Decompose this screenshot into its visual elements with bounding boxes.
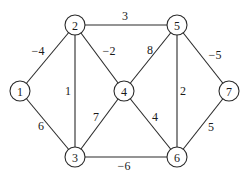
node-5: 5 [167, 15, 187, 35]
node-label: 4 [121, 85, 127, 99]
node-1: 1 [10, 81, 30, 101]
node-2: 2 [65, 15, 85, 35]
edge-weight-1-2: −4 [32, 44, 45, 58]
edge-weight-4-5: 8 [147, 43, 153, 57]
nodes: 1234567 [10, 15, 239, 167]
edge-weight-5-7: −5 [209, 48, 222, 62]
edge-weight-3-4: 7 [93, 110, 99, 124]
edge-1-2 [20, 25, 75, 91]
edge-4-5 [124, 25, 177, 91]
edge-weight-5-6: 2 [180, 84, 186, 98]
edge-2-4 [75, 25, 124, 91]
node-7: 7 [219, 81, 239, 101]
edge-weight-6-7: 5 [208, 120, 214, 134]
edge-1-3 [20, 91, 75, 157]
node-label: 5 [174, 19, 180, 33]
node-3: 3 [65, 147, 85, 167]
node-label: 3 [72, 151, 78, 165]
node-4: 4 [114, 81, 134, 101]
edge-weight-2-3: 1 [65, 84, 71, 98]
edge-4-6 [124, 91, 177, 157]
node-label: 7 [226, 85, 232, 99]
edge-6-7 [177, 91, 229, 157]
edge-weight-2-4: −2 [103, 44, 116, 58]
node-6: 6 [167, 147, 187, 167]
edge-weight-1-3: 6 [38, 119, 44, 133]
edge-weight-2-5: 3 [122, 9, 128, 23]
edge-weight-4-6: 4 [152, 110, 158, 124]
weighted-graph-diagram: −4631−27−6842−55 1234567 [0, 0, 248, 180]
edge-weight-3-6: −6 [118, 159, 131, 173]
node-label: 6 [174, 151, 180, 165]
edge-3-4 [75, 91, 124, 157]
node-label: 2 [72, 19, 78, 33]
node-label: 1 [17, 85, 23, 99]
